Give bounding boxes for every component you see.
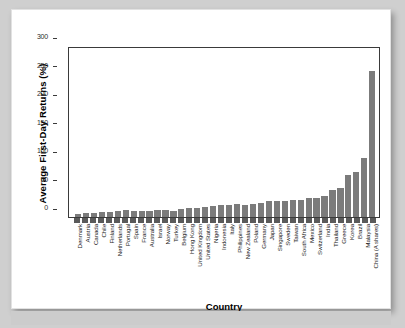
x-axis-tick-label: China (A shares) xyxy=(373,224,379,268)
x-axis-label-slot: Korea xyxy=(346,224,352,310)
y-axis-tick-mark xyxy=(53,66,57,67)
bar xyxy=(91,213,97,217)
x-axis-tick-mark xyxy=(226,218,232,223)
x-axis-tick-mark xyxy=(266,218,272,223)
bar xyxy=(226,205,232,217)
x-axis-tick-mark xyxy=(338,218,344,223)
x-axis-label-slot: Spain xyxy=(130,224,136,310)
y-axis-tick-label: 150 xyxy=(37,119,48,126)
y-axis-tick-mark xyxy=(53,95,57,96)
bar xyxy=(290,200,296,217)
x-axis-tick-mark xyxy=(138,218,144,223)
x-axis-tick-mark xyxy=(346,218,352,223)
x-axis-tick-mark xyxy=(74,218,80,223)
bar xyxy=(170,211,176,217)
x-axis-label-slot: India xyxy=(322,224,328,310)
bar xyxy=(146,211,152,217)
bar xyxy=(321,196,327,217)
x-axis-label-slot: France xyxy=(138,224,144,310)
x-axis-tick-mark xyxy=(170,218,176,223)
x-axis-label-slot: Philippines xyxy=(234,224,240,310)
x-axis-label-slot: Singapore xyxy=(274,224,280,310)
x-axis-label-slot: Turkey xyxy=(170,224,176,310)
x-axis-label-slot: Mexico xyxy=(306,224,312,310)
bar xyxy=(123,210,129,217)
bar xyxy=(186,208,192,217)
x-axis-label-slot: Taiwan xyxy=(290,224,296,310)
x-axis-tick-mark xyxy=(322,218,328,223)
bar xyxy=(210,206,216,217)
x-axis-tick-mark xyxy=(330,218,336,223)
x-axis-tick-mark xyxy=(122,218,128,223)
x-axis-label-slot: Germany xyxy=(258,224,264,310)
bar xyxy=(369,71,375,217)
bar xyxy=(178,209,184,217)
y-axis-tick-mark xyxy=(53,152,57,153)
x-axis-label-slot: Hong Kong xyxy=(186,224,192,310)
x-axis-tick-mark xyxy=(250,218,256,223)
bar xyxy=(115,211,121,217)
x-axis-label-slot: Japan xyxy=(266,224,272,310)
x-axis-label-slot: China (A shares) xyxy=(370,224,376,310)
x-axis-tick-mark xyxy=(290,218,296,223)
bar xyxy=(194,208,200,217)
x-axis-label-slot: Poland xyxy=(250,224,256,310)
x-axis-tick-mark xyxy=(258,218,264,223)
x-axis-label-slot: Norway xyxy=(162,224,168,310)
x-axis-label-slot: Malaysia xyxy=(362,224,368,310)
bar xyxy=(154,210,160,217)
x-axis-label-slot: Sweden xyxy=(282,224,288,310)
plot-area xyxy=(68,47,380,218)
x-axis-label-slot: United States xyxy=(202,224,208,310)
screenshot-root: Average First-Day Returns (%) 0501001502… xyxy=(0,0,405,328)
x-axis-tick-mark xyxy=(146,218,152,223)
y-axis-tick-mark xyxy=(53,209,57,210)
bar xyxy=(266,201,272,217)
x-axis-label-slot: Chile xyxy=(98,224,104,310)
y-axis-tick-mark xyxy=(53,123,57,124)
x-axis-label-slot: Brazil xyxy=(354,224,360,310)
y-axis-tick-label: 300 xyxy=(37,33,48,40)
bar xyxy=(139,211,145,217)
x-axis-label-slot: Denmark xyxy=(74,224,80,310)
x-axis-label-slot: Netherlands xyxy=(114,224,120,310)
bar xyxy=(242,205,248,217)
x-axis-tick-mark xyxy=(274,218,280,223)
x-axis-tick-mark xyxy=(210,218,216,223)
bar xyxy=(298,200,304,217)
bar xyxy=(337,188,343,217)
x-axis-tick-mark xyxy=(218,218,224,223)
x-axis-tick-mark xyxy=(194,218,200,223)
bar xyxy=(282,201,288,217)
x-axis-label-slot: Indonesia xyxy=(218,224,224,310)
y-axis-tick-label: 100 xyxy=(37,147,48,154)
x-axis-label-slot: Switzerland xyxy=(314,224,320,310)
x-axis-tick-mark xyxy=(306,218,312,223)
x-axis-tick-mark xyxy=(106,218,112,223)
x-axis-tick-mark xyxy=(178,218,184,223)
bar xyxy=(250,204,256,217)
y-axis-tick-label: 50 xyxy=(41,176,48,183)
bar xyxy=(75,214,81,217)
bar xyxy=(234,204,240,217)
y-axis-tick-label: 0 xyxy=(44,204,48,211)
chart-card: Average First-Day Returns (%) 0501001502… xyxy=(11,9,391,309)
x-axis-label-slot: Italy xyxy=(226,224,232,310)
x-axis-label-slot: Greece xyxy=(338,224,344,310)
x-axis-label-slot: Belgium xyxy=(178,224,184,310)
bar xyxy=(258,203,264,217)
y-axis-tick-mark xyxy=(53,38,57,39)
bar xyxy=(218,205,224,217)
bar xyxy=(361,158,367,217)
y-axis-tick-mark xyxy=(53,180,57,181)
x-axis-tick-mark xyxy=(314,218,320,223)
x-axis-tick-mark xyxy=(186,218,192,223)
x-axis-labels: DenmarkAustriaCanadaChileFinlandNetherla… xyxy=(68,224,380,310)
x-axis-tick-mark xyxy=(162,218,168,223)
y-axis-title: Average First-Day Returns (%) xyxy=(37,59,48,209)
x-axis-label-slot: Canada xyxy=(90,224,96,310)
x-axis-tick-mark xyxy=(82,218,88,223)
bar xyxy=(202,207,208,217)
bar xyxy=(83,213,89,217)
x-axis-label-slot: Australia xyxy=(146,224,152,310)
